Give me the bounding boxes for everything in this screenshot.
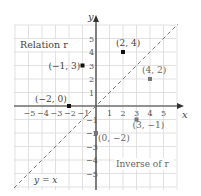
inverse-label: Inverse of r <box>116 159 169 169</box>
x-tick-label: 5 <box>161 109 166 118</box>
line-label: y = x <box>33 175 57 185</box>
y-axis-label: y <box>87 11 94 22</box>
x-tick-label: −2 <box>64 109 76 118</box>
x-tick-label: −4 <box>37 109 49 118</box>
x-tick-label: 4 <box>148 109 153 118</box>
y-tick-label: −1 <box>86 116 98 125</box>
point-marker <box>81 64 85 68</box>
x-tick-label: 2 <box>121 109 126 118</box>
point-marker <box>67 104 71 108</box>
point-marker <box>148 77 152 81</box>
y-tick-label: 5 <box>89 35 94 44</box>
point-label: (−2, 0) <box>35 94 67 104</box>
point-label: (4, 2) <box>142 65 166 75</box>
point-marker <box>121 50 125 54</box>
point-label: (−1, 3) <box>49 61 81 71</box>
relation-inverse-graph: x y −5−4−3−2−11234554321−1−2−3−4−5 Relat… <box>0 0 201 196</box>
point-label: (0, −2) <box>98 133 130 143</box>
y-tick-label: −3 <box>86 143 98 152</box>
y-tick-label: 1 <box>89 89 94 98</box>
relation-label: Relation r <box>20 39 68 50</box>
y-tick-label: −4 <box>86 156 98 165</box>
y-tick-label: −5 <box>86 170 98 179</box>
y-tick-label: 3 <box>89 62 94 71</box>
x-tick-label: 1 <box>107 109 112 118</box>
x-tick-label: −3 <box>51 109 63 118</box>
y-tick-label: 4 <box>89 48 94 57</box>
points: (2, 4)(−1, 3)(−2, 0)(4, 2)(3, −1)(0, −2) <box>35 38 166 143</box>
y-tick-label: 2 <box>89 75 94 84</box>
x-tick-label: 3 <box>134 109 139 118</box>
point-label: (2, 4) <box>116 38 140 48</box>
x-tick-label: −5 <box>24 109 36 118</box>
x-axis-label: x <box>182 109 188 120</box>
point-label: (3, −1) <box>133 120 165 130</box>
y-axis-arrow-icon <box>93 15 99 22</box>
